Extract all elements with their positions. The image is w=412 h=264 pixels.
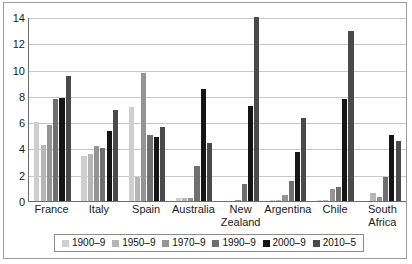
bar: [41, 145, 46, 201]
legend-label: 1900–9: [72, 238, 105, 248]
legend-swatch-icon: [212, 240, 219, 247]
x-axis-tick-label: Argentina: [264, 203, 311, 228]
legend-item[interactable]: 1950–9: [112, 238, 155, 248]
legend-label: 2000–9: [273, 238, 306, 248]
bar: [53, 99, 58, 201]
bar-group: [359, 18, 406, 201]
bar-group: [265, 18, 312, 201]
bar: [282, 195, 287, 201]
x-axis-tick-label: Australia: [170, 203, 217, 228]
plot-area: 02468101214: [28, 18, 406, 202]
bar-group-container: [29, 18, 406, 201]
legend-item[interactable]: 1970–9: [162, 238, 205, 248]
y-axis-tick-label: 4: [19, 144, 25, 155]
y-axis-tick-label: 8: [19, 91, 25, 102]
bar: [254, 17, 259, 201]
bar: [342, 99, 347, 202]
legend-label: 2010–5: [323, 238, 356, 248]
x-axis-tick-label: South Africa: [359, 203, 406, 228]
bar: [270, 200, 275, 201]
bar: [383, 177, 388, 201]
bar-group: [29, 18, 76, 201]
bar: [188, 198, 193, 201]
x-axis-tick-label: France: [28, 203, 75, 228]
x-axis-tick-label: Chile: [312, 203, 359, 228]
bar: [135, 177, 140, 201]
legend-item[interactable]: 1990–9: [212, 238, 255, 248]
legend-item[interactable]: 1900–9: [62, 238, 105, 248]
bar: [295, 152, 300, 201]
bar: [34, 122, 39, 201]
bar: [336, 187, 341, 201]
x-axis-tick-label: Italy: [75, 203, 122, 228]
bar: [59, 98, 64, 201]
bar: [323, 200, 328, 201]
bar-group: [170, 18, 217, 201]
bar: [176, 198, 181, 201]
x-axis-labels: FranceItalySpainAustraliaNew ZealandArge…: [28, 203, 406, 228]
bar: [248, 106, 253, 201]
legend-swatch-icon: [62, 240, 69, 247]
bar: [141, 73, 146, 201]
bar: [276, 200, 281, 201]
bar: [396, 141, 401, 201]
bar: [235, 200, 240, 201]
bar-group: [123, 18, 170, 201]
bar: [182, 198, 187, 201]
x-axis-tick-label: New Zealand: [217, 203, 264, 228]
legend-label: 1990–9: [222, 238, 255, 248]
legend-swatch-icon: [112, 240, 119, 247]
bar: [317, 200, 322, 201]
bar: [301, 118, 306, 201]
chart-legend: 1900–91950–91970–91990–92000–92010–5: [54, 234, 364, 252]
bar-group: [312, 18, 359, 201]
bar: [154, 137, 159, 201]
bar: [147, 135, 152, 201]
legend-item[interactable]: 2000–9: [263, 238, 306, 248]
legend-swatch-icon: [162, 240, 169, 247]
legend-swatch-icon: [263, 240, 270, 247]
bar: [389, 135, 394, 201]
legend-label: 1950–9: [122, 238, 155, 248]
y-axis-tick-label: 2: [19, 170, 25, 181]
bar: [370, 193, 375, 201]
bar: [94, 146, 99, 201]
bar: [47, 125, 52, 201]
bar: [348, 31, 353, 201]
bar: [113, 110, 118, 201]
y-axis-tick-label: 10: [13, 65, 25, 76]
chart-frame: 02468101214 FranceItalySpainAustraliaNew…: [3, 2, 407, 259]
x-axis-tick-label: Spain: [123, 203, 170, 228]
bar: [289, 181, 294, 201]
y-axis-tick-label: 0: [19, 197, 25, 208]
bar: [88, 154, 93, 201]
bar: [242, 184, 247, 201]
legend-item[interactable]: 2010–5: [313, 238, 356, 248]
bar: [201, 89, 206, 201]
y-axis-tick-label: 14: [13, 13, 25, 24]
bar: [330, 189, 335, 201]
bar: [81, 156, 86, 201]
bar: [207, 143, 212, 201]
bar: [194, 166, 199, 201]
bar: [100, 148, 105, 201]
bar-group: [218, 18, 265, 201]
legend-swatch-icon: [313, 240, 320, 247]
bar-group: [76, 18, 123, 201]
y-axis-tick-label: 12: [13, 39, 25, 50]
bar-chart: 02468101214 FranceItalySpainAustraliaNew…: [0, 0, 412, 264]
bar: [377, 197, 382, 201]
legend-label: 1970–9: [172, 238, 205, 248]
y-axis-tick-label: 6: [19, 118, 25, 129]
bar: [129, 107, 134, 201]
bar: [107, 131, 112, 201]
bar: [66, 76, 71, 201]
bar: [160, 127, 165, 201]
